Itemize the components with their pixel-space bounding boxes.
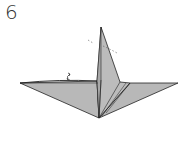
- rotate-arrow-icon: [67, 73, 70, 80]
- origami-crane-diagram: [0, 0, 189, 142]
- left-wing: [20, 81, 99, 118]
